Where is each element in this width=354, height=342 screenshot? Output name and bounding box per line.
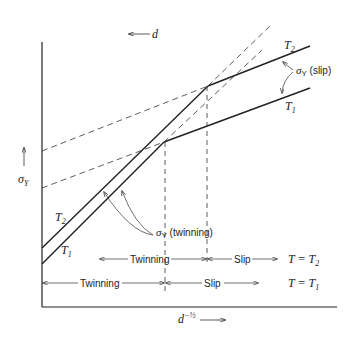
slip-T2-region-label: Slip <box>234 254 251 265</box>
slip-T2-label: T2 <box>284 38 295 54</box>
slip-arrow-down-icon <box>282 72 293 93</box>
slip-T1-label: T1 <box>285 99 296 115</box>
twin-T2-dashed <box>208 24 272 86</box>
twinning-T1-label: Twinning <box>80 278 119 289</box>
x-axis-label: d−½ <box>178 311 195 326</box>
twin-T1-dashed <box>164 50 262 142</box>
condition-T2: T = T2 <box>288 252 319 268</box>
twin-T2-solid <box>42 86 208 248</box>
y-axis-label: σY <box>18 172 30 188</box>
slip-T1-region-label: Slip <box>204 278 221 289</box>
slip-arrow-up-icon <box>283 62 293 70</box>
twinning-T2-label: Twinning <box>130 254 169 265</box>
twinning-slip-diagram: d σY T2 T1 T2 T1 σY (slip) σY (twinning)… <box>0 0 354 342</box>
sigma-twinning-label: σY (twinning) <box>156 226 213 240</box>
slip-T2-solid <box>208 46 310 86</box>
twin-arrow-1-icon <box>104 192 153 235</box>
slip-T1-solid <box>164 88 310 142</box>
twin-T2-label: T2 <box>55 210 66 226</box>
slip-T1-dashed <box>42 142 164 188</box>
sigma-slip-label: σY (slip) <box>296 64 331 78</box>
twin-T1-label: T1 <box>61 243 72 259</box>
top-d-label: d <box>152 27 159 41</box>
condition-T1: T = T1 <box>288 276 319 292</box>
twin-arrow-2-icon <box>122 191 153 235</box>
slip-T2-dashed <box>42 86 208 151</box>
